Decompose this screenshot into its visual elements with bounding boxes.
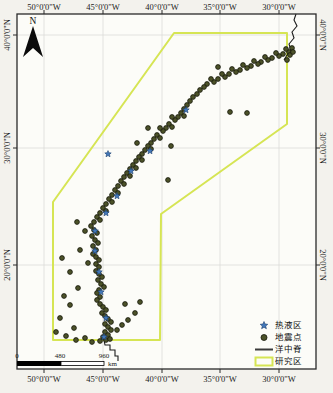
earthquake-point	[135, 141, 140, 146]
earthquake-point	[241, 63, 246, 68]
earthquake-point	[109, 328, 114, 333]
axis-label-right: 20°0'0"N	[318, 249, 328, 281]
axis-label-bottom: 45°0'0"W	[86, 374, 119, 384]
earthquake-point	[102, 285, 107, 290]
earthquake-point	[209, 77, 214, 82]
legend-item-hydrothermal: 热液区	[253, 320, 302, 331]
earthquake-point	[291, 50, 296, 55]
earthquake-point	[158, 126, 163, 131]
earthquake-point	[62, 294, 67, 299]
axis-label-top: 35°0'0"W	[203, 2, 236, 12]
earthquake-point	[54, 330, 59, 335]
scale-bar-segment-white	[61, 362, 104, 366]
earthquake-point	[170, 125, 175, 130]
dot-icon	[253, 332, 275, 343]
earthquake-point	[285, 58, 290, 63]
axis-label-top: 40°0'0"W	[145, 2, 178, 12]
earthquake-point	[90, 340, 95, 345]
earthquake-point	[126, 318, 131, 323]
axis-label-top: 30°0'0"W	[262, 2, 295, 12]
earthquake-point	[78, 248, 83, 253]
earthquake-point	[169, 144, 174, 149]
earthquake-point	[110, 200, 115, 205]
earthquake-point	[98, 339, 103, 344]
earthquake-point	[75, 220, 80, 225]
earthquake-point	[133, 311, 138, 316]
earthquake-point	[58, 316, 63, 321]
earthquake-point	[263, 55, 268, 60]
legend-label: 洋中脊	[275, 344, 302, 355]
earthquake-point	[98, 218, 103, 223]
earthquake-point	[76, 286, 81, 291]
axis-label-left: 30°0'0"N	[2, 132, 12, 164]
map-figure: N 50°0'0"W50°0'0"W45°0'0"W45°0'0"W40°0'0…	[0, 0, 333, 393]
legend-label: 地震点	[275, 332, 302, 343]
earthquake-point	[115, 328, 120, 333]
axis-label-left: 20°0'0"N	[2, 249, 12, 281]
map-background	[17, 14, 316, 369]
earthquake-point	[109, 320, 114, 325]
earthquake-point	[146, 126, 151, 131]
earthquake-point	[83, 229, 88, 234]
axis-label-bottom: 30°0'0"W	[262, 374, 295, 384]
earthquake-point	[284, 47, 289, 52]
earthquake-point	[122, 182, 127, 187]
earthquake-point	[83, 336, 88, 341]
axis-label-top: 50°0'0"W	[27, 2, 60, 12]
earthquake-point	[96, 241, 101, 246]
axis-label-left: 40°0'0"N	[2, 19, 12, 51]
earthquake-point	[74, 338, 79, 343]
legend: 热液区地震点洋中脊研究区	[253, 320, 302, 367]
legend-item-ridge: 洋中脊	[253, 344, 302, 355]
legend-label: 研究区	[275, 356, 302, 367]
earthquake-point	[140, 158, 145, 163]
star-icon	[253, 320, 275, 331]
scale-bar-unit: km	[108, 360, 117, 368]
axis-label-bottom: 50°0'0"W	[27, 374, 60, 384]
scale-bar-segment-black	[17, 361, 61, 366]
earthquake-point	[120, 323, 125, 328]
axis-label-top: 45°0'0"W	[86, 2, 119, 12]
earthquake-point	[228, 110, 233, 115]
earthquake-point	[60, 256, 65, 261]
earthquake-point	[158, 136, 163, 141]
scale-bar	[17, 361, 104, 366]
earthquake-point	[230, 67, 235, 72]
scale-bar-number: 960	[99, 352, 110, 360]
axis-label-bottom: 40°0'0"W	[145, 374, 178, 384]
earthquake-point	[128, 174, 133, 179]
earthquake-point	[274, 51, 279, 56]
legend-label: 热液区	[275, 320, 302, 331]
earthquake-point	[216, 65, 221, 70]
legend-item-earthquake: 地震点	[253, 332, 302, 343]
axis-label-bottom: 35°0'0"W	[203, 374, 236, 384]
earthquake-point	[108, 337, 113, 342]
earthquake-point	[72, 326, 77, 331]
earthquake-point	[245, 111, 250, 116]
earthquake-point	[138, 300, 143, 305]
line-icon	[253, 344, 275, 355]
earthquake-point	[68, 270, 73, 275]
scale-bar-number: 480	[55, 352, 66, 360]
earthquake-point	[64, 334, 69, 339]
north-arrow-label: N	[30, 16, 37, 26]
earthquake-point	[68, 303, 73, 308]
earthquake-point	[86, 261, 91, 266]
axis-label-right: 30°0'0"N	[318, 132, 328, 164]
earthquake-point	[170, 115, 175, 120]
scale-bar-number: 0	[15, 352, 19, 360]
earthquake-point	[123, 302, 128, 307]
earthquake-point	[182, 114, 187, 119]
earthquake-point	[166, 178, 171, 183]
earthquake-point	[220, 72, 225, 77]
axis-label-right: 40°0'0"N	[318, 19, 328, 51]
rectangle-icon	[253, 356, 275, 367]
legend-item-study-area: 研究区	[253, 356, 302, 367]
earthquake-point	[252, 59, 257, 64]
